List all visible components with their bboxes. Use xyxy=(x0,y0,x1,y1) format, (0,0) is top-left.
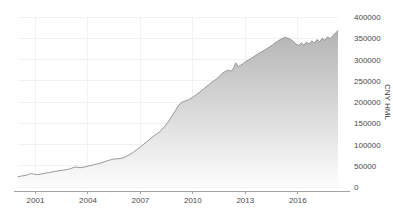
y-tick-label: 0 xyxy=(354,183,359,192)
y-tick-label: 100000 xyxy=(354,141,381,150)
y-tick-label: 350000 xyxy=(354,34,381,43)
x-tick-label: 2016 xyxy=(289,196,307,205)
area-chart: 200120042007201020132016 050000100000150… xyxy=(0,0,393,214)
x-tick-label: 2001 xyxy=(27,196,45,205)
y-tick-label: 50000 xyxy=(354,162,377,171)
y-tick-label: 200000 xyxy=(354,98,381,107)
x-tick-label: 2007 xyxy=(132,196,150,205)
y-tick-label: 250000 xyxy=(354,77,381,86)
y-tick-label: 300000 xyxy=(354,56,381,65)
y-axis-title: CNY HML xyxy=(383,84,392,120)
y-tick-label: 150000 xyxy=(354,119,381,128)
x-tick-label: 2013 xyxy=(236,196,254,205)
x-tick-label: 2010 xyxy=(184,196,202,205)
chart-container: 200120042007201020132016 050000100000150… xyxy=(0,0,393,214)
y-tick-label: 400000 xyxy=(354,13,381,22)
x-tick-label: 2004 xyxy=(79,196,97,205)
